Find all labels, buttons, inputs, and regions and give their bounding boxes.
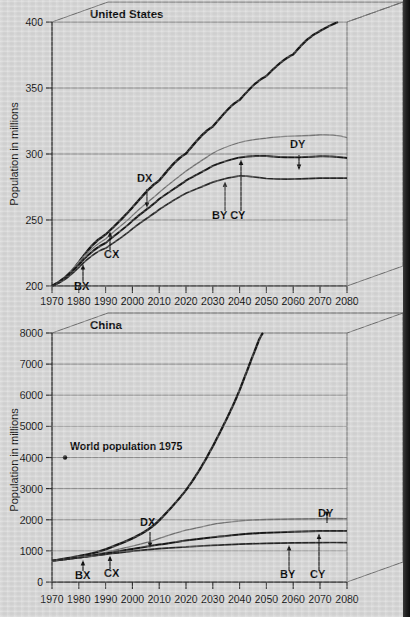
annotation-label-cy: CY: [310, 568, 326, 580]
annotation-cy-cn: CY: [310, 534, 326, 581]
y-tick-label: 4000: [20, 452, 44, 464]
annotation-label-dx: DX: [140, 516, 156, 528]
x-tick-label: 2010: [148, 295, 172, 307]
annotation-by-cn: BY: [280, 545, 296, 580]
x-tick-label: 2010: [148, 593, 172, 605]
perspective-right-face-us: [347, 2, 403, 286]
annotation-label-dy: DY: [290, 138, 306, 150]
annotation-bx-cn: BX: [75, 560, 91, 581]
y-tick-label: 0: [37, 576, 43, 588]
x-tick-label: 1970: [40, 593, 64, 605]
annotation-cx-us: CX: [104, 232, 120, 261]
y-tick-label: 6000: [20, 389, 44, 401]
chart-svg-united-states: 400 350 300 250 200 1970 1980 1990 2000 …: [0, 0, 410, 310]
y-tick-label: 250: [25, 214, 43, 226]
curve-series-b: [52, 176, 347, 286]
x-tick-label: 1990: [94, 295, 118, 307]
x-tick-label: 2070: [308, 295, 332, 307]
y-tick-label: 400: [25, 16, 43, 28]
x-tick-label: 2080: [335, 593, 359, 605]
annotation-by-cy-us: BY CY: [212, 160, 246, 222]
chart-title: China: [90, 319, 123, 331]
x-ticks-us: [52, 286, 347, 293]
x-tick-label: 2070: [308, 593, 332, 605]
annotation-cx-cn: CX: [104, 556, 120, 580]
x-tick-label: 1980: [67, 593, 91, 605]
y-axis-title: Population in millions: [8, 408, 20, 512]
y-ticks-cn: [46, 333, 52, 582]
x-ticks-cn: [52, 582, 347, 589]
y-tick-label: 350: [25, 82, 43, 94]
world-population-marker: World population 1975: [63, 440, 183, 460]
x-tick-label: 2060: [282, 295, 306, 307]
curve-series-c: [52, 156, 347, 286]
x-tick-label: 2020: [174, 295, 198, 307]
y-tick-label: 200: [25, 280, 43, 292]
y-ticks-us: [46, 22, 52, 286]
annotation-dx-us: DX: [137, 172, 153, 208]
x-tick-label: 2030: [201, 295, 225, 307]
y-axis-title: Population in millions: [8, 102, 20, 206]
x-tick-label: 2050: [255, 593, 279, 605]
y-tick-label: 5000: [20, 420, 44, 432]
chart-panel-united-states: 400 350 300 250 200 1970 1980 1990 2000 …: [0, 0, 410, 310]
x-tick-label: 2080: [335, 295, 359, 307]
chart-svg-china: 8000 7000 6000 5000 4000 3000 2000 1000 …: [0, 310, 410, 617]
annotation-label-bx: BX: [74, 280, 90, 292]
x-tick-label: 1980: [67, 295, 91, 307]
y-tick-label: 2000: [20, 514, 44, 526]
x-tick-label: 2000: [121, 295, 145, 307]
y-tick-label: 8000: [20, 327, 44, 339]
x-tick-label: 2020: [174, 593, 198, 605]
x-tick-label: 2040: [228, 593, 252, 605]
x-tick-label: 2040: [228, 295, 252, 307]
y-tick-label: 1000: [20, 545, 44, 557]
y-tick-label: 3000: [20, 483, 44, 495]
annotation-label-dx: DX: [137, 172, 153, 184]
world-population-label: World population 1975: [70, 440, 183, 452]
x-tick-label: 2000: [121, 593, 145, 605]
chart-panel-china: 8000 7000 6000 5000 4000 3000 2000 1000 …: [0, 310, 410, 617]
x-tick-label: 1970: [40, 295, 64, 307]
annotation-label-cx: CX: [104, 248, 120, 260]
y-tick-label: 300: [25, 148, 43, 160]
perspective-right-face-cn: [347, 313, 403, 582]
annotation-label-by: BY: [280, 568, 296, 580]
annotation-dy-cn: DY: [318, 507, 334, 523]
chart-title: United States: [90, 8, 164, 20]
x-tick-label: 1990: [94, 593, 118, 605]
y-tick-label: 7000: [20, 358, 44, 370]
gridlines-horizontal-us: [52, 22, 347, 220]
page-edge-shadow: [403, 0, 410, 617]
x-tick-label: 2060: [282, 593, 306, 605]
annotation-label-cx: CX: [104, 567, 120, 579]
x-tick-label: 2030: [201, 593, 225, 605]
x-tick-label: 2050: [255, 295, 279, 307]
